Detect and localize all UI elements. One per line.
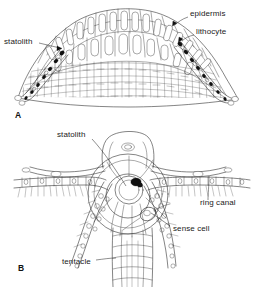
- ring-canal-right: [148, 177, 250, 198]
- lappet-left: [70, 182, 112, 268]
- radial-canal-right: [152, 166, 226, 172]
- figure-drawing: .s{fill:none;stroke:#1f1f1f;stroke-width…: [0, 0, 254, 287]
- tentacle-cross-bands: [113, 234, 152, 280]
- canal-vesicle-left: [51, 171, 61, 176]
- ring-canal-cells-right: [162, 179, 244, 185]
- arrow-lithocyte: [178, 37, 183, 42]
- lithocyte-tract-left: [18, 50, 68, 102]
- panel-label-a: A: [15, 110, 21, 120]
- ring-canal-cells-left: [24, 179, 92, 185]
- basal-corner-cells: [15, 95, 239, 105]
- leader-sense-cell: [151, 213, 170, 226]
- panel-b-leaders: [92, 139, 209, 260]
- statolith-mass: [131, 178, 143, 187]
- cilia-right: [155, 186, 233, 198]
- sense-cell-cluster: [123, 204, 170, 230]
- panel-a-drawing: [15, 9, 239, 107]
- label-tentacle: tentacle: [62, 258, 91, 266]
- basal-line: [18, 98, 238, 107]
- leader-tentacle: [96, 258, 116, 260]
- label-statolith-a: statolith: [4, 38, 32, 46]
- label-epidermis: epidermis: [190, 10, 226, 18]
- panel-label-b: B: [18, 263, 24, 273]
- label-lithocyte: lithocyte: [196, 28, 226, 36]
- panel-b-drawing: [14, 131, 250, 287]
- cilia-left: [18, 186, 89, 197]
- bell-aperture: [122, 143, 135, 151]
- statocyst-chamber: [106, 174, 150, 218]
- label-sense-cell: sense cell: [173, 225, 210, 233]
- label-ring-canal: ring canal: [200, 199, 236, 207]
- statolith-granules-left: [24, 50, 65, 100]
- label-statolith-b: statolith: [57, 131, 85, 139]
- radial-canal-left: [30, 166, 104, 172]
- leader-epidermis: [175, 17, 188, 25]
- tentacle: [112, 228, 153, 287]
- canal-vesicle-right: [193, 171, 203, 176]
- figure-canvas: .s{fill:none;stroke:#1f1f1f;stroke-width…: [0, 0, 254, 287]
